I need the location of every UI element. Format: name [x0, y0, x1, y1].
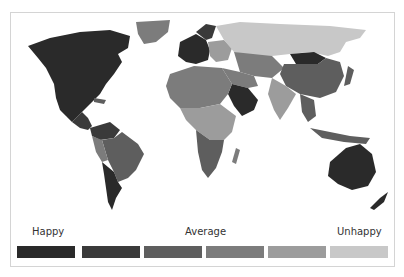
legend-swatch-3: [144, 246, 202, 258]
legend-swatch-1: [17, 246, 75, 258]
legend-swatch-2: [82, 246, 140, 258]
legend-label-average: Average: [185, 226, 226, 237]
region-madagascar: [232, 148, 240, 164]
legend-swatch-4: [206, 246, 264, 258]
region-australia: [328, 144, 376, 190]
region-arabian-peninsula: [228, 84, 258, 116]
legend-label-happy: Happy: [32, 226, 64, 237]
legend-swatch-5: [268, 246, 326, 258]
region-indonesia: [310, 128, 370, 144]
region-japan: [344, 66, 354, 86]
world-map: [10, 12, 395, 222]
region-north-america: [28, 30, 130, 122]
region-greenland: [136, 20, 170, 44]
region-north-africa: [166, 66, 232, 108]
legend-label-unhappy: Unhappy: [337, 226, 382, 237]
region-southeast-asia: [300, 94, 316, 122]
region-caribbean: [94, 98, 106, 104]
legend-swatch-6: [330, 246, 388, 258]
region-new-zealand: [370, 192, 388, 210]
region-russia: [216, 22, 366, 56]
region-central-africa: [180, 104, 236, 140]
